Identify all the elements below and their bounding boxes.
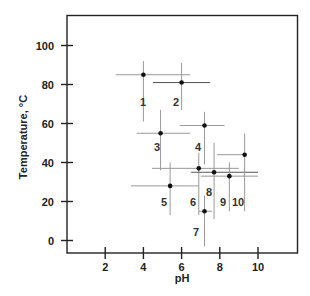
data-point bbox=[227, 174, 232, 179]
x-axis-title: pH bbox=[175, 272, 190, 284]
point-label: 4 bbox=[195, 141, 202, 153]
plot-frame bbox=[67, 16, 298, 254]
y-axis-title: Temperature, °C bbox=[17, 95, 29, 179]
point-label: 6 bbox=[190, 196, 196, 208]
point-label: 9 bbox=[220, 196, 226, 208]
point-label: 3 bbox=[154, 141, 160, 153]
point-label: 10 bbox=[232, 196, 244, 208]
x-tick-label: 2 bbox=[102, 261, 108, 273]
y-tick-label: 80 bbox=[42, 79, 54, 91]
data-point bbox=[242, 152, 247, 157]
x-tick-label: 10 bbox=[252, 261, 264, 273]
y-tick-label: 100 bbox=[36, 40, 54, 52]
point-label: 7 bbox=[193, 226, 199, 238]
point-labels: 12345678910 bbox=[140, 96, 244, 238]
y-tick-label: 60 bbox=[42, 118, 54, 130]
point-label: 1 bbox=[140, 96, 146, 108]
y-tick-label: 20 bbox=[42, 196, 54, 208]
x-tick-label: 4 bbox=[140, 261, 147, 273]
data-point bbox=[179, 80, 184, 85]
data-point bbox=[141, 72, 146, 77]
chart: 020406080100 246810 12345678910 pH Tempe… bbox=[0, 0, 310, 296]
x-tick-label: 8 bbox=[217, 261, 223, 273]
data-point bbox=[202, 209, 207, 214]
error-bars bbox=[116, 61, 258, 246]
data-point bbox=[168, 184, 173, 189]
point-label: 8 bbox=[206, 186, 212, 198]
data-point bbox=[212, 170, 217, 175]
y-tick-label: 0 bbox=[48, 235, 54, 247]
point-label: 2 bbox=[173, 96, 179, 108]
data-point bbox=[196, 166, 201, 171]
data-point bbox=[202, 123, 207, 128]
point-label: 5 bbox=[161, 196, 167, 208]
y-tick-label: 40 bbox=[42, 157, 54, 169]
x-axis-ticks: 246810 bbox=[102, 247, 264, 273]
data-point bbox=[158, 131, 163, 136]
